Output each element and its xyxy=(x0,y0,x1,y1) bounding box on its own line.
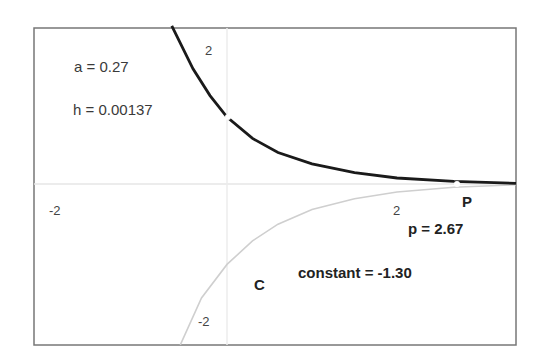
point-p-label: P xyxy=(462,193,472,210)
param-a: a = 0.27 xyxy=(74,58,129,75)
y-tick-neg: -2 xyxy=(198,314,210,329)
constant-label: constant = -1.30 xyxy=(298,264,412,281)
y-tick-pos: 2 xyxy=(205,43,212,58)
plot-frame xyxy=(34,28,516,345)
gap-marker xyxy=(225,114,231,120)
curve-p xyxy=(172,26,516,183)
plot-area xyxy=(0,0,538,363)
point-p-marker[interactable] xyxy=(454,181,460,187)
x-tick-pos: 2 xyxy=(393,203,400,218)
p-value-label: p = 2.67 xyxy=(408,220,463,237)
param-h: h = 0.00137 xyxy=(73,101,153,118)
x-tick-neg: -2 xyxy=(49,203,61,218)
curve-c-label: C xyxy=(254,276,265,293)
